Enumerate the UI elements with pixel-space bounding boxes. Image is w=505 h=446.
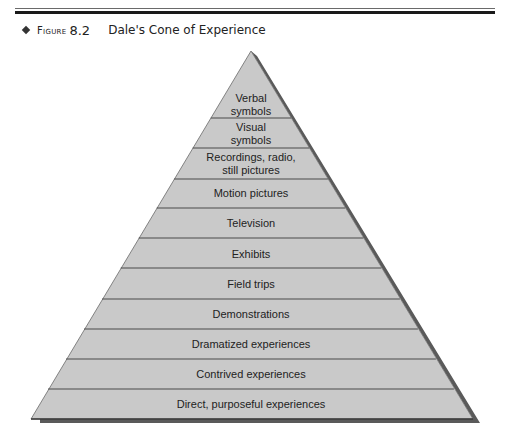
level-label: Direct, purposeful experiences — [177, 398, 326, 411]
level-field-trips: Field trips — [227, 278, 275, 291]
level-dramatized-experiences: Dramatized experiences — [192, 338, 311, 351]
level-label: Field trips — [227, 278, 275, 291]
level-label: Demonstrations — [212, 308, 289, 321]
level-direct-purposeful-experiences: Direct, purposeful experiences — [177, 398, 326, 411]
level-contrived-experiences: Contrived experiences — [196, 368, 305, 381]
level-label: Motion pictures — [214, 187, 289, 200]
level-label: Exhibits — [232, 248, 271, 261]
level-verbal-symbols: Verbal symbols — [231, 92, 271, 118]
level-label: Verbal — [231, 92, 271, 105]
level-label: Recordings, radio, — [206, 151, 295, 164]
level-label: Visual — [231, 121, 271, 134]
level-demonstrations: Demonstrations — [212, 308, 289, 321]
level-visual-symbols: Visual symbols — [231, 121, 271, 147]
level-label: still pictures — [206, 164, 295, 177]
level-label: Contrived experiences — [196, 368, 305, 381]
level-motion-pictures: Motion pictures — [214, 187, 289, 200]
level-label: symbols — [231, 134, 271, 147]
level-recordings-radio: Recordings, radio, still pictures — [206, 151, 295, 177]
level-label: symbols — [231, 105, 271, 118]
level-label: Television — [227, 217, 275, 230]
level-television: Television — [227, 217, 275, 230]
level-exhibits: Exhibits — [232, 248, 271, 261]
level-label: Dramatized experiences — [192, 338, 311, 351]
